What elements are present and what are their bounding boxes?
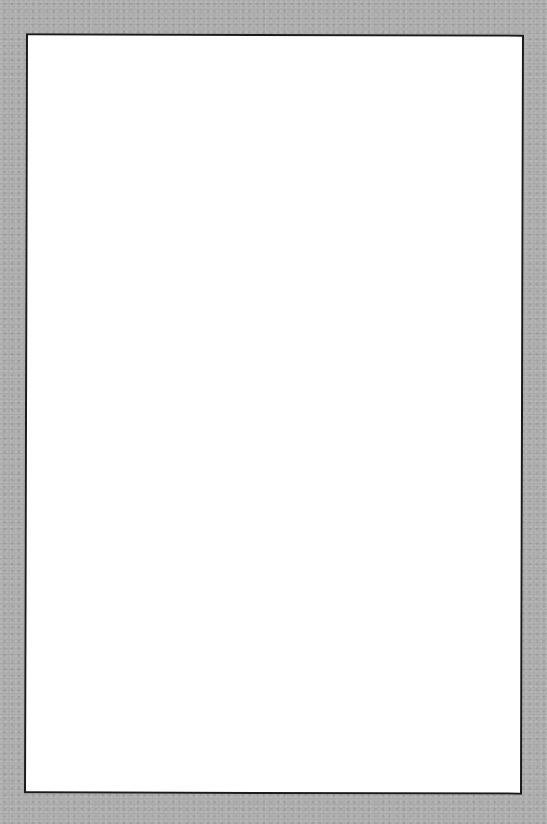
- blank-white-sheet: [24, 33, 524, 794]
